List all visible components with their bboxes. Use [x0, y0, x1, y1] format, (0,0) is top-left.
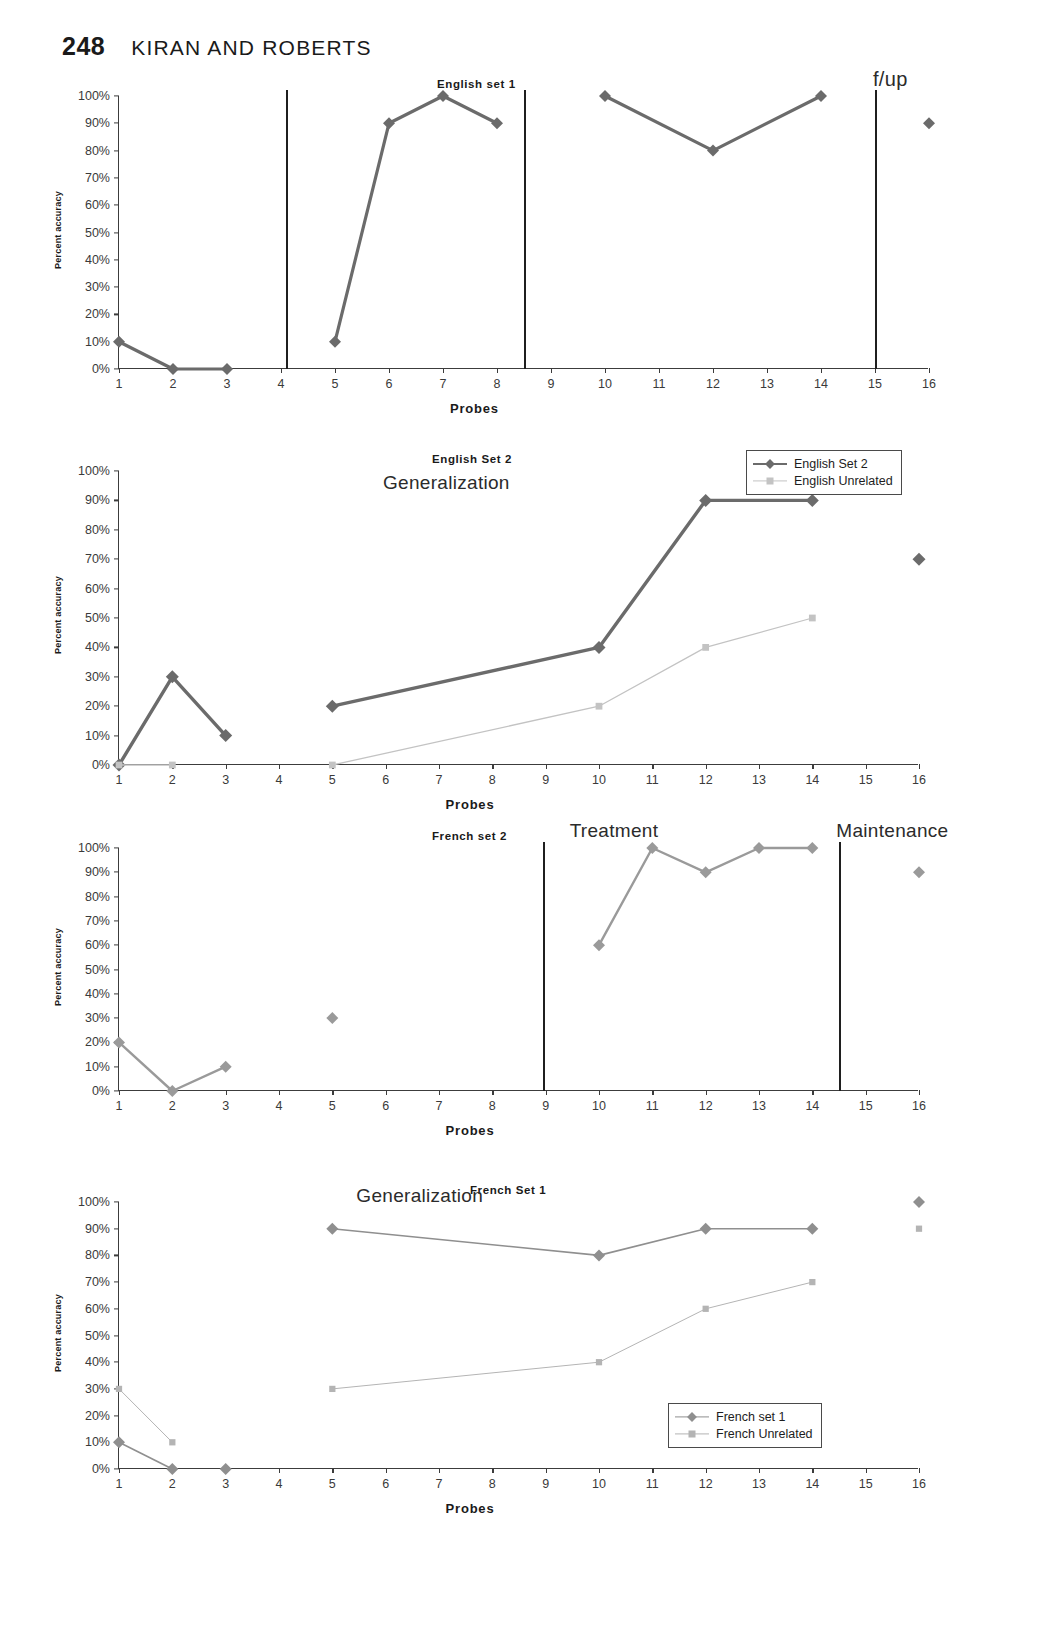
plot-area-english-set-2: 100%90%80%70%60%50%40%30%20%10%0%1234567…: [118, 471, 918, 765]
x-axis-label: Probes: [446, 797, 495, 812]
data-point-diamond: [326, 1012, 338, 1024]
legend-key-diamond-icon: [675, 1412, 709, 1422]
y-tick-label: 50%: [85, 611, 119, 625]
y-tick-label: 90%: [85, 1222, 119, 1236]
annotation-generalization: Generalization: [356, 1185, 483, 1207]
data-series: [113, 90, 935, 375]
y-tick-label: 100%: [78, 1195, 119, 1209]
y-tick-label: 90%: [85, 116, 119, 130]
y-tick-label: 80%: [85, 523, 119, 537]
x-tick-mark: [919, 764, 920, 769]
data-series: [116, 615, 816, 769]
x-axis-label: Probes: [446, 1123, 495, 1138]
data-point-square: [116, 1386, 122, 1392]
legend-key-square-icon: [753, 476, 787, 486]
annotation-treatment: Treatment: [570, 820, 659, 842]
series-layer: [119, 96, 929, 389]
y-tick-label: 50%: [85, 226, 119, 240]
data-point-square: [596, 1359, 602, 1365]
y-tick-label: 100%: [78, 841, 119, 855]
y-tick-label: 90%: [85, 493, 119, 507]
data-point-square: [169, 1439, 175, 1445]
series-line: [119, 1442, 172, 1469]
data-point-diamond: [329, 336, 341, 348]
data-point-diamond: [593, 1249, 605, 1261]
y-tick-label: 30%: [85, 280, 119, 294]
data-series: [113, 842, 925, 1097]
y-tick-label: 60%: [85, 198, 119, 212]
y-tick-label: 70%: [85, 171, 119, 185]
plot-area-french-set-2: 100%90%80%70%60%50%40%30%20%10%0%1234567…: [118, 848, 918, 1091]
y-tick-label: 100%: [78, 464, 119, 478]
panel-title-french-set-2: French set 2: [432, 830, 507, 842]
page-number: 248: [62, 32, 105, 61]
data-point-diamond: [806, 494, 819, 507]
legend-item: English Set 2: [753, 455, 893, 472]
data-point-diamond: [707, 145, 719, 157]
data-point-square: [329, 1386, 335, 1392]
series-layer: [119, 848, 919, 1111]
y-tick-label: 40%: [85, 640, 119, 654]
legend-label: French Unrelated: [716, 1427, 813, 1441]
legend-item: French Unrelated: [675, 1425, 813, 1442]
legend-item: English Unrelated: [753, 472, 893, 489]
data-point-square: [703, 1306, 709, 1312]
y-tick-label: 80%: [85, 890, 119, 904]
legend-key-square-icon: [675, 1429, 709, 1439]
data-point-diamond: [220, 1463, 232, 1475]
plot-area-english-set-1: 100%90%80%70%60%50%40%30%20%10%0%1234567…: [118, 96, 928, 369]
y-tick-label: 20%: [85, 307, 119, 321]
x-axis-label: Probes: [446, 1501, 495, 1516]
data-point-square: [916, 1226, 922, 1232]
data-point-diamond: [646, 842, 658, 854]
y-tick-label: 40%: [85, 253, 119, 267]
y-tick-label: 0%: [92, 362, 119, 376]
data-point-diamond: [326, 1223, 338, 1235]
y-tick-label: 0%: [92, 1084, 119, 1098]
y-tick-label: 20%: [85, 1409, 119, 1423]
data-point-diamond: [491, 117, 503, 129]
panel-title-english-set-1: English set 1: [437, 78, 516, 90]
data-point-diamond: [326, 700, 339, 713]
data-point-diamond: [923, 117, 935, 129]
annotation-f-up: f/up: [873, 68, 908, 91]
data-point-diamond: [220, 1061, 232, 1073]
y-tick-label: 30%: [85, 670, 119, 684]
data-point-square: [809, 615, 816, 622]
data-point-diamond: [593, 939, 605, 951]
legend-key-diamond-icon: [753, 459, 787, 469]
legend-item: French set 1: [675, 1408, 813, 1425]
y-axis-label: Percent accuracy: [53, 172, 63, 288]
y-tick-label: 50%: [85, 963, 119, 977]
series-line: [332, 1229, 812, 1256]
data-point-diamond: [437, 90, 449, 102]
data-point-square: [116, 762, 123, 769]
y-tick-label: 70%: [85, 914, 119, 928]
data-point-diamond: [167, 363, 179, 375]
y-tick-label: 30%: [85, 1382, 119, 1396]
data-point-diamond: [383, 117, 395, 129]
series-layer: [119, 471, 919, 785]
data-point-square: [596, 703, 603, 710]
data-point-diamond: [221, 363, 233, 375]
data-point-diamond: [700, 1223, 712, 1235]
y-tick-label: 80%: [85, 144, 119, 158]
legend-english-set-2: English Set 2English Unrelated: [746, 450, 902, 495]
data-point-diamond: [913, 1196, 925, 1208]
y-tick-label: 30%: [85, 1011, 119, 1025]
annotation-maintenance: Maintenance: [836, 820, 948, 842]
page-header: 248 KIRAN AND ROBERTS: [62, 32, 372, 61]
y-tick-label: 60%: [85, 1302, 119, 1316]
x-tick-mark: [919, 1468, 920, 1473]
y-tick-label: 70%: [85, 1275, 119, 1289]
data-point-diamond: [913, 866, 925, 878]
y-tick-label: 10%: [85, 729, 119, 743]
series-line: [605, 96, 821, 151]
data-point-diamond: [753, 842, 765, 854]
data-point-square: [329, 762, 336, 769]
y-tick-label: 20%: [85, 699, 119, 713]
series-line: [332, 500, 812, 706]
legend-label: English Set 2: [794, 457, 868, 471]
y-tick-label: 60%: [85, 582, 119, 596]
x-tick-mark: [919, 1090, 920, 1095]
